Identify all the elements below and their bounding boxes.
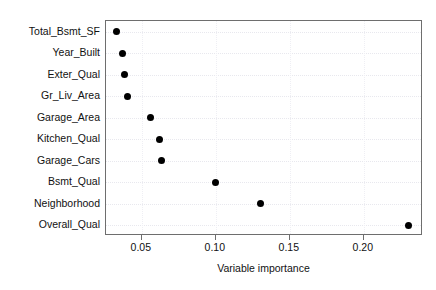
x-tick-label: 0.20 [353,241,373,253]
gridline-column [216,21,217,234]
y-axis-label: Year_Built [53,46,100,58]
x-axis: 0.050.100.150.20 [105,235,422,265]
gridline-row [106,96,421,97]
data-point[interactable] [156,136,163,143]
data-point[interactable] [257,200,264,207]
gridline-row [106,225,421,226]
y-axis-label: Garage_Cars [37,154,100,166]
y-axis-label: Neighborhood [34,197,100,209]
gridline-row [106,53,421,54]
x-tick-label: 0.15 [279,241,299,253]
data-point[interactable] [147,114,154,121]
gridline-column [290,21,291,234]
y-axis-label: Bsmt_Qual [48,175,100,187]
y-axis-label: Gr_Liv_Area [41,89,100,101]
gridline-row [106,182,421,183]
plot-panel [105,20,422,235]
y-axis-label: Exter_Qual [47,68,100,80]
gridline-column [364,21,365,234]
y-axis-category-labels: Total_Bsmt_SFYear_BuiltExter_QualGr_Liv_… [0,20,100,235]
data-point[interactable] [212,179,219,186]
dot-plot-figure: Total_Bsmt_SFYear_BuiltExter_QualGr_Liv_… [0,0,436,290]
gridline-row [106,75,421,76]
x-axis-title: Variable importance [105,262,422,274]
x-tick-label: 0.05 [131,241,151,253]
x-tick-label: 0.10 [205,241,225,253]
y-axis-label: Garage_Area [37,111,100,123]
data-point[interactable] [158,157,165,164]
data-point[interactable] [405,222,412,229]
data-point[interactable] [119,50,126,57]
x-tick-mark [363,235,364,240]
gridline-row [106,32,421,33]
x-tick-mark [289,235,290,240]
y-axis-label: Total_Bsmt_SF [29,25,100,37]
data-point[interactable] [124,93,131,100]
y-axis-label: Kitchen_Qual [37,132,100,144]
data-point[interactable] [113,28,120,35]
y-axis-label: Overall_Qual [39,218,100,230]
gridline-column [142,21,143,234]
data-point[interactable] [121,71,128,78]
x-tick-mark [141,235,142,240]
gridline-row [106,161,421,162]
gridline-row [106,139,421,140]
x-tick-mark [215,235,216,240]
